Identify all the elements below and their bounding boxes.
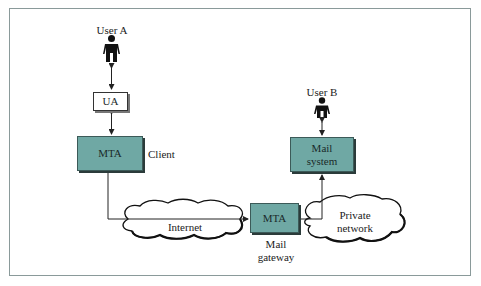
user-a-label: User A (91, 24, 133, 36)
private-network-line2: network (330, 222, 380, 234)
mta-client-box: MTA (77, 136, 143, 171)
client-label: Client (148, 148, 175, 160)
person-icon-user-b (314, 97, 330, 118)
person-icon-user-a (103, 35, 120, 62)
ua-label: UA (103, 95, 119, 108)
mta-gateway-label: MTA (263, 212, 287, 225)
mail-system-line1: Mail (312, 142, 333, 155)
private-network-line1: Private (330, 209, 380, 221)
mail-gateway-caption-line1: Mail (250, 238, 302, 250)
mta-client-label: MTA (98, 147, 122, 160)
mail-gateway-caption-line2: gateway (250, 251, 302, 263)
mail-system-box: Mail system (290, 137, 354, 172)
mail-system-line2: system (307, 155, 338, 168)
internet-label: Internet (160, 221, 210, 233)
mta-gateway-box: MTA (250, 203, 299, 233)
ua-box: UA (93, 92, 128, 111)
diagram-canvas (0, 0, 481, 286)
user-b-label: User B (301, 86, 343, 98)
